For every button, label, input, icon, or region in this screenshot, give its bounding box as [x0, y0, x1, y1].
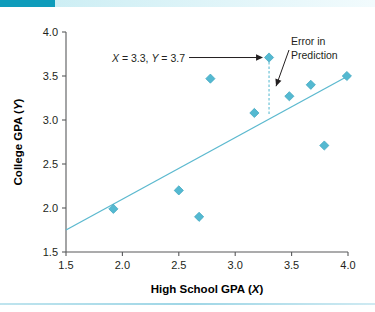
coordinate-annotation-label: X = 3.3, Y = 3.7 [111, 52, 185, 64]
error-annotation-arrow-head [275, 79, 281, 87]
annotations-group: X = 3.3, Y = 3.7Error inPrediction [111, 35, 338, 86]
axis-titles-group: High School GPA (X)College GPA (Y) [12, 98, 263, 295]
chart-page: 1.52.02.53.03.54.01.52.02.53.03.54.0 X =… [0, 0, 375, 312]
x-tick-label: 4.0 [340, 259, 355, 271]
regression-line-group [66, 76, 348, 230]
x-tick-label: 2.5 [171, 259, 186, 271]
data-points-group [109, 53, 352, 221]
y-tick-label: 2.5 [43, 158, 58, 170]
data-point-marker [174, 186, 183, 195]
x-tick-label: 2.0 [115, 259, 130, 271]
data-point-marker [342, 71, 351, 80]
error-annotation-line1: Error in [291, 35, 326, 47]
y-tick-label: 3.5 [43, 70, 58, 82]
data-point-marker [285, 92, 294, 101]
data-point-marker [320, 141, 329, 150]
scatter-plot: 1.52.02.53.03.54.01.52.02.53.03.54.0 X =… [0, 0, 375, 312]
regression-line [66, 76, 348, 230]
data-point-marker [306, 80, 315, 89]
x-tick-label: 3.5 [284, 259, 299, 271]
data-point-marker [206, 74, 215, 83]
y-tick-label: 4.0 [43, 26, 58, 38]
axes-group [62, 32, 348, 256]
x-tick-label: 1.5 [58, 259, 73, 271]
y-axis-title: College GPA (Y) [12, 98, 24, 185]
y-tick-label: 2.0 [43, 202, 58, 214]
y-tick-label: 1.5 [43, 246, 58, 258]
data-point-marker [250, 108, 259, 117]
data-point-marker [195, 212, 204, 221]
error-annotation-line2: Prediction [291, 49, 338, 61]
tick-labels-group: 1.52.02.53.03.54.01.52.02.53.03.54.0 [43, 26, 356, 271]
x-axis-title: High School GPA (X) [151, 283, 264, 295]
x-tick-label: 3.0 [228, 259, 243, 271]
data-point-marker [264, 53, 273, 62]
coordinate-annotation-arrow-head [256, 54, 263, 60]
y-tick-label: 3.0 [43, 114, 58, 126]
